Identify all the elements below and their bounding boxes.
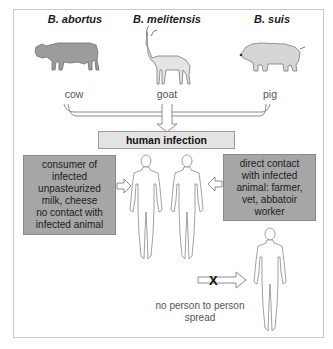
animal-label-pig: pig [240,88,300,100]
indirect-transmission-box: consumer of infected unpasteurized milk,… [23,155,116,235]
box-line: no contact with [24,207,115,219]
box-line: animal: farmer, [224,182,315,194]
box-line: consumer of [24,159,115,171]
blocked-x-icon: X [209,273,218,288]
box-line: worker [224,206,315,218]
arrow-right-box-to-persons [208,177,222,191]
person-figure-1 [130,155,162,259]
animal-label-cow: cow [44,88,104,100]
cow-icon [35,43,99,70]
box-line: vet, abbatoir [224,194,315,206]
blocked-transmission-arrow [198,272,246,288]
box-line: infected animal [24,219,115,231]
no-spread-caption: no person to person spread [148,300,252,324]
caption-line: no person to person [148,300,252,312]
animal-label-goat: goat [137,88,197,100]
converging-bracket [64,104,270,132]
box-line: unpasteurized [24,183,115,195]
pig-icon [240,43,305,71]
goat-icon [146,26,190,84]
box-line: with infected [224,170,315,182]
arrow-left-box-to-persons [117,179,131,193]
person-figure-2 [171,155,203,259]
box-line: infected [24,171,115,183]
caption-line: spread [148,312,252,324]
direct-contact-box: direct contact with infected animal: far… [223,154,316,221]
box-line: milk, cheese [24,195,115,207]
person-figure-3 [254,228,286,331]
box-line: direct contact [224,158,315,170]
human-infection-box: human infection [98,131,235,149]
